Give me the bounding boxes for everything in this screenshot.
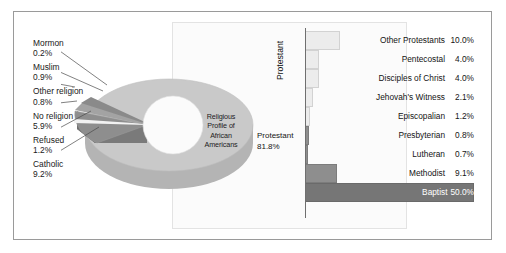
bar-label-value: 2.1% xyxy=(448,88,474,107)
pie-callout-other-religion-name: Other religion xyxy=(33,86,83,96)
pie-center-line-3: African xyxy=(190,131,252,140)
bar-label-value: 0.7% xyxy=(448,145,474,164)
bar-label-value: 10.0% xyxy=(448,31,474,50)
bar-row[interactable]: Presbyterian0.8% xyxy=(306,126,474,145)
pie-callout-mormon-name: Mormon xyxy=(33,38,64,48)
pie-callout-catholic: Catholic 9.2% xyxy=(33,159,113,180)
bar-label-value: 0.8% xyxy=(448,126,474,145)
pie-center-line-2: Profile of xyxy=(190,121,252,130)
pie-callout-no-religion-value: 5.9% xyxy=(33,121,113,131)
pie-callout-muslim-value: 0.9% xyxy=(33,72,113,82)
pie-callout-refused-value: 1.2% xyxy=(33,145,113,155)
pie-callout-mormon-value: 0.2% xyxy=(33,48,113,58)
bar-label-value: 4.0% xyxy=(448,50,474,69)
pie-callout-refused-name: Refused xyxy=(33,135,64,145)
bar-label-value: 50.0% xyxy=(450,183,474,202)
pie-center-title: Religious Profile of African Americans xyxy=(190,112,252,150)
bar-label-other-protestants: Other Protestants10.0% xyxy=(308,31,474,50)
bar-row[interactable]: Episcopalian1.2% xyxy=(306,107,474,126)
bar-label-name: Episcopalian xyxy=(398,111,445,121)
bar-label-baptist: Baptist50.0% xyxy=(308,183,474,202)
bar-label-disciples-of-christ: Disciples of Christ4.0% xyxy=(308,69,474,88)
bar-label-jehovah-s-witness: Jehovah's Witness2.1% xyxy=(308,88,474,107)
bar-row[interactable]: Baptist50.0% xyxy=(306,183,474,202)
bar-row[interactable]: Lutheran0.7% xyxy=(306,145,474,164)
bar-label-pentecostal: Pentecostal4.0% xyxy=(308,50,474,69)
bar-label-name: Methodist xyxy=(409,168,445,178)
bar-label-episcopalian: Episcopalian1.2% xyxy=(308,107,474,126)
pie-callout-muslim-name: Muslim xyxy=(33,62,60,72)
bar-row[interactable]: Pentecostal4.0% xyxy=(306,50,474,69)
bar-label-presbyterian: Presbyterian0.8% xyxy=(308,126,474,145)
bar-chart-axis-title: Protestant xyxy=(275,41,285,80)
pie-center-line-1: Religious xyxy=(190,112,252,121)
pie-callout-other-religion: Other religion 0.8% xyxy=(33,86,113,107)
bar-label-name: Other Protestants xyxy=(380,35,445,45)
pie-callout-catholic-value: 9.2% xyxy=(33,169,113,179)
bar-label-name: Disciples of Christ xyxy=(379,73,445,83)
pie-callout-mormon: Mormon 0.2% xyxy=(33,38,113,59)
pie-callout-labels: Mormon 0.2% Muslim 0.9% Other religion 0… xyxy=(33,38,113,183)
bar-label-lutheran: Lutheran0.7% xyxy=(308,145,474,164)
bar-row[interactable]: Jehovah's Witness2.1% xyxy=(306,88,474,107)
bar-label-methodist: Methodist9.1% xyxy=(308,164,474,183)
pie-callout-other-religion-value: 0.8% xyxy=(33,97,113,107)
figure-root: Religious Profile of African Americans P… xyxy=(0,0,506,253)
pie-callout-catholic-name: Catholic xyxy=(33,159,63,169)
bar-row[interactable]: Other Protestants10.0% xyxy=(306,31,474,50)
pie-callout-muslim: Muslim 0.9% xyxy=(33,62,113,83)
bar-label-value: 9.1% xyxy=(448,164,474,183)
bar-label-value: 4.0% xyxy=(448,69,474,88)
pie-chart: Religious Profile of African Americans P… xyxy=(13,11,283,240)
pie-callout-refused: Refused 1.2% xyxy=(33,135,113,156)
pie-callout-no-religion: No religion 5.9% xyxy=(33,111,113,132)
bar-row[interactable]: Disciples of Christ4.0% xyxy=(306,69,474,88)
bar-label-name: Pentecostal xyxy=(402,54,445,64)
pie-center-line-4: Americans xyxy=(190,140,252,149)
bar-label-value: 1.2% xyxy=(448,107,474,126)
bar-row[interactable]: Methodist9.1% xyxy=(306,164,474,183)
bar-label-name: Jehovah's Witness xyxy=(376,92,445,102)
bar-chart-plot: Other Protestants10.0%Pentecostal4.0%Dis… xyxy=(305,28,475,218)
bar-label-name: Presbyterian xyxy=(398,130,445,140)
bar-chart: Protestant Other Protestants10.0%Penteco… xyxy=(281,22,477,222)
pie-callout-no-religion-name: No religion xyxy=(33,111,73,121)
bar-label-name: Baptist xyxy=(422,187,447,197)
bar-label-name: Lutheran xyxy=(412,149,445,159)
